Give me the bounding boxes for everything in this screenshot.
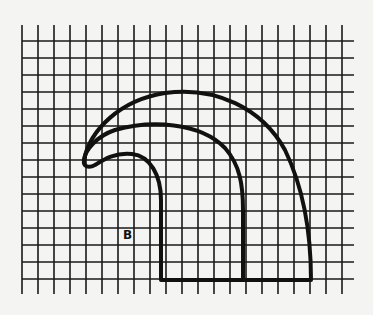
grid-figure: B bbox=[0, 0, 373, 315]
graph-paper-grid bbox=[22, 25, 354, 294]
shape-label: B bbox=[123, 228, 132, 242]
hook-shape-outline bbox=[84, 124, 243, 280]
